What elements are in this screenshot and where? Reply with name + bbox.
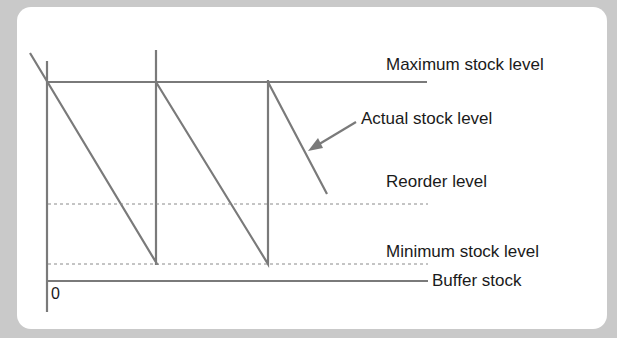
- maximum-stock-label: Maximum stock level: [386, 55, 544, 75]
- buffer-stock-label: Buffer stock: [432, 271, 521, 291]
- stock-level-diagram: [0, 0, 617, 338]
- actual-stock-label: Actual stock level: [361, 109, 492, 129]
- arrow-head: [308, 138, 323, 151]
- origin-label: 0: [51, 285, 60, 303]
- reorder-level-label: Reorder level: [386, 172, 487, 192]
- minimum-stock-label: Minimum stock level: [386, 242, 539, 262]
- arrow-shaft: [316, 122, 356, 146]
